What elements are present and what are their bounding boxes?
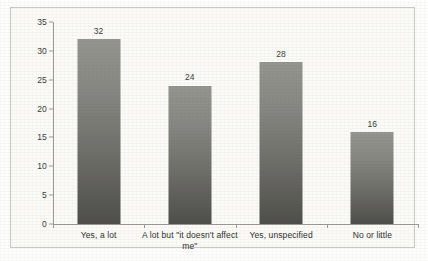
x-axis-tick-mark — [418, 224, 419, 228]
bar-value-label: 16 — [367, 119, 377, 129]
bar-value-label: 28 — [276, 49, 286, 59]
bar — [260, 62, 303, 224]
x-axis-tick-mark — [236, 224, 237, 228]
y-axis-tick-label: 20 — [37, 104, 47, 114]
bar-group: 28Yes, unspecified — [236, 22, 327, 224]
bar — [168, 86, 211, 225]
chart-page: 05101520253035 32Yes, a lot24A lot but "… — [0, 0, 428, 261]
bar-group: 24A lot but "it doesn't affect me" — [144, 22, 235, 224]
chart-frame: 05101520253035 32Yes, a lot24A lot but "… — [10, 7, 415, 248]
y-axis-tick-label: 30 — [37, 46, 47, 56]
x-axis-tick-mark — [327, 224, 328, 228]
bar-value-label: 24 — [185, 72, 195, 82]
bar — [77, 39, 120, 224]
y-axis-tick-label: 25 — [37, 75, 47, 85]
y-axis-tick-label: 5 — [42, 190, 47, 200]
bar-group: 16No or little — [327, 22, 418, 224]
y-axis-tick-label: 15 — [37, 132, 47, 142]
bar-group: 32Yes, a lot — [53, 22, 144, 224]
x-axis-tick-mark — [53, 224, 54, 228]
y-axis-tick-label: 10 — [37, 161, 47, 171]
y-axis-tick-label: 35 — [37, 17, 47, 27]
bar-value-label: 32 — [94, 26, 104, 36]
plot-area: 05101520253035 32Yes, a lot24A lot but "… — [53, 22, 418, 224]
x-axis-tick-mark — [144, 224, 145, 228]
bar — [351, 132, 394, 224]
y-axis-tick-label: 0 — [42, 219, 47, 229]
x-axis-category-label: No or little — [318, 230, 426, 241]
